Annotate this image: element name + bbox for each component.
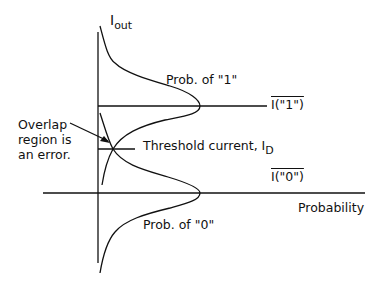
overlap-note-line-1: Overlap (18, 117, 72, 132)
threshold-label: Threshold current, ID (143, 139, 274, 154)
overlap-note-line-2: region is (18, 132, 72, 147)
x-axis-label: Probability (298, 201, 364, 215)
threshold-label-main: Threshold current, I (143, 138, 265, 153)
curve-zero-label: Prob. of "0" (143, 218, 214, 232)
y-axis-label: Iout (110, 13, 132, 29)
level-one-label: I("1") (271, 98, 304, 112)
overlap-note-line-3: an error. (18, 147, 72, 162)
y-axis-label-sub: out (114, 19, 132, 32)
curve-one-label: Prob. of "1" (166, 73, 237, 87)
level-zero-label: I("0") (271, 170, 304, 184)
threshold-label-sub: D (265, 144, 273, 157)
overlap-note: Overlap region is an error. (18, 117, 72, 162)
